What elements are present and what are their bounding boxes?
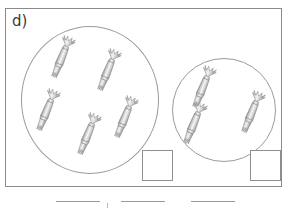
right-answer-box[interactable] (250, 150, 281, 181)
answer-line-2[interactable] (121, 201, 165, 202)
item-label: d) (12, 14, 27, 29)
answer-line-separator (107, 203, 108, 208)
worksheet-page: d) (0, 0, 288, 211)
left-answer-box[interactable] (142, 150, 173, 181)
answer-line-1[interactable] (56, 201, 100, 202)
answer-line-3[interactable] (191, 201, 235, 202)
